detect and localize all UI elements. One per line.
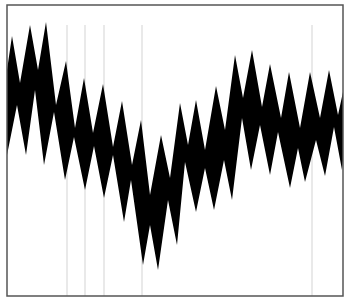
chart-plot-area [0,0,347,303]
band-chart [0,0,347,303]
